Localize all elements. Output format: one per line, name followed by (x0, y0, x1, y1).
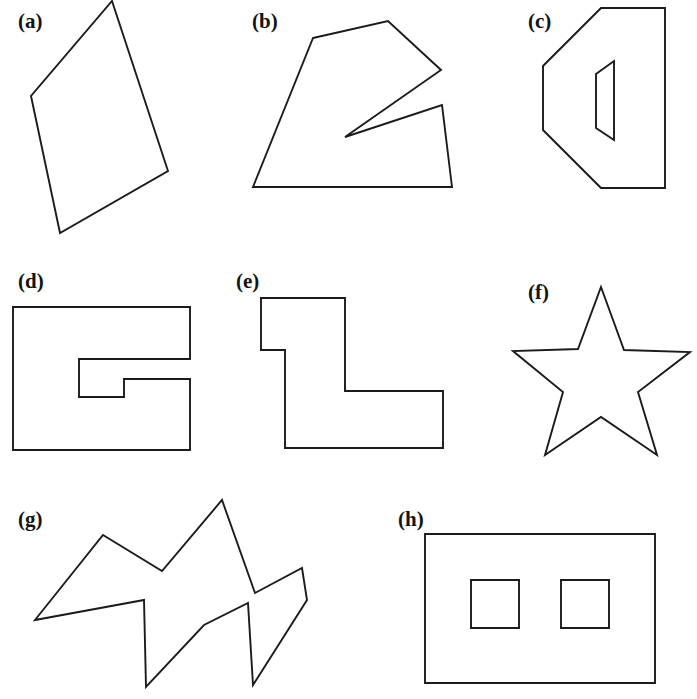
panel-label-b: (b) (252, 9, 278, 33)
shape-hole-h-1 (471, 580, 519, 628)
panel-label-e: (e) (236, 269, 259, 293)
shape-outline-h (425, 534, 655, 683)
shape-outline-f (513, 287, 690, 455)
panel-label-g: (g) (18, 507, 43, 531)
shape-outline-b (253, 21, 452, 187)
shape-outline-a (31, 1, 168, 233)
polygon-figure: (a)(b)(c)(d)(e)(f)(g)(h) (0, 0, 697, 699)
panel-label-d: (d) (18, 269, 44, 293)
panel-label-h: (h) (398, 507, 424, 531)
panel-label-c: (c) (528, 9, 551, 33)
shape-outline-e (261, 298, 443, 448)
shape-panel-h: (h) (398, 507, 655, 683)
shape-panel-f: (f) (513, 280, 690, 455)
shape-panel-g: (g) (18, 500, 307, 687)
shape-panel-c: (c) (528, 8, 665, 188)
shape-panel-a: (a) (18, 1, 168, 233)
shape-panel-d: (d) (13, 269, 190, 450)
shape-panel-e: (e) (236, 269, 443, 448)
panel-label-f: (f) (528, 280, 549, 304)
shape-hole-c-1 (596, 61, 614, 140)
panel-label-a: (a) (18, 9, 43, 33)
shape-outline-d (13, 307, 190, 450)
shape-panel-b: (b) (252, 9, 452, 187)
figure-root: (a)(b)(c)(d)(e)(f)(g)(h) (0, 0, 697, 699)
shape-hole-h-2 (561, 580, 609, 628)
shape-outline-g (35, 500, 307, 687)
